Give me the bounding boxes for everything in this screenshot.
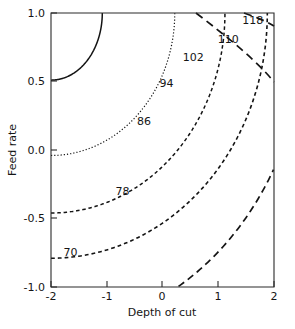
x-tick-label--2: -2: [46, 290, 57, 303]
contour-label-78: 78: [115, 185, 129, 198]
x-tick-label-1: 1: [215, 290, 222, 303]
contour-label-102: 102: [183, 51, 204, 64]
x-tick-label-2: 2: [271, 290, 278, 303]
contour-label-118: 118: [242, 14, 263, 27]
contour-label-110: 110: [218, 33, 239, 46]
y-tick-label--1.0: -1.0: [24, 281, 45, 294]
x-axis-title: Depth of cut: [128, 306, 197, 319]
y-axis-title: Feed rate: [6, 124, 19, 176]
contour-label-94: 94: [159, 77, 173, 90]
contour-label-70: 70: [64, 246, 78, 259]
y-tick-label-0.5: 0.5: [28, 75, 46, 88]
y-tick-label--0.5: -0.5: [24, 212, 45, 225]
contour-label-86: 86: [137, 115, 151, 128]
x-tick-label-0: 0: [159, 290, 166, 303]
contour-plot-figure: 70 78 86 94 102 110 118 1.0 0.5 0.0 -0.5…: [0, 0, 295, 329]
y-tick-label-1.0: 1.0: [28, 7, 46, 20]
y-axis-tick-labels: 1.0 0.5 0.0 -0.5 -1.0: [24, 7, 45, 294]
plot-background: [51, 13, 274, 287]
x-tick-label--1: -1: [102, 290, 113, 303]
y-tick-label-0.0: 0.0: [28, 144, 46, 157]
x-axis-tick-labels: -2 -1 0 1 2: [46, 290, 278, 303]
